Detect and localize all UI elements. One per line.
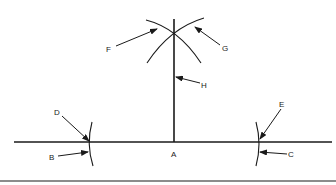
label-d: D [54,108,60,117]
arrow-g [195,27,220,45]
arrow-e [260,109,281,139]
arrow-f [116,29,157,46]
label-e: E [279,100,284,109]
arrow-h [176,77,200,83]
label-b: B [49,153,54,162]
label-g: G [222,44,228,53]
left-arc [89,122,93,166]
top-right-arc [147,18,204,63]
diagram-canvas: F G H D B A E C [0,0,336,185]
arrow-b [58,152,88,156]
arrow-d [62,116,89,141]
label-c: C [288,150,294,159]
arrow-c [260,152,287,154]
label-f: F [106,45,111,54]
right-arc [256,122,259,166]
label-h: H [201,81,207,90]
perpendicular-construction-diagram: F G H D B A E C [0,0,336,185]
label-a: A [171,150,177,159]
